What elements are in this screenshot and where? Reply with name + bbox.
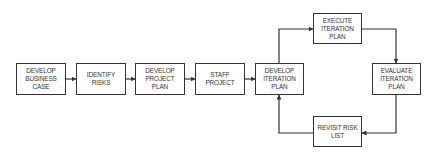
arrow-iterplan-to-execute xyxy=(279,29,313,63)
node-staff-project: STAFF PROJECT xyxy=(195,63,245,95)
arrow-execute-to-evaluate xyxy=(362,29,396,63)
node-develop-project-plan: DEVELOP PROJECT PLAN xyxy=(135,63,185,95)
arrow-revisit-to-iterplan xyxy=(279,95,313,133)
node-develop-business-case: DEVELOP BUSINESS CASE xyxy=(16,63,66,95)
node-identify-risks: IDENTIFY RISKS xyxy=(76,63,126,95)
node-evaluate-iteration-plan: EVALUATE ITERATION PLAN xyxy=(372,63,421,95)
node-develop-iteration-plan: DEVELOP ITERATION PLAN xyxy=(255,63,304,95)
node-revisit-risk-list: REVISIT RISK LIST xyxy=(313,116,362,147)
arrow-evaluate-to-revisit xyxy=(362,95,396,133)
node-execute-iteration-plan: EXECUTE ITERATION PLAN xyxy=(313,13,362,44)
